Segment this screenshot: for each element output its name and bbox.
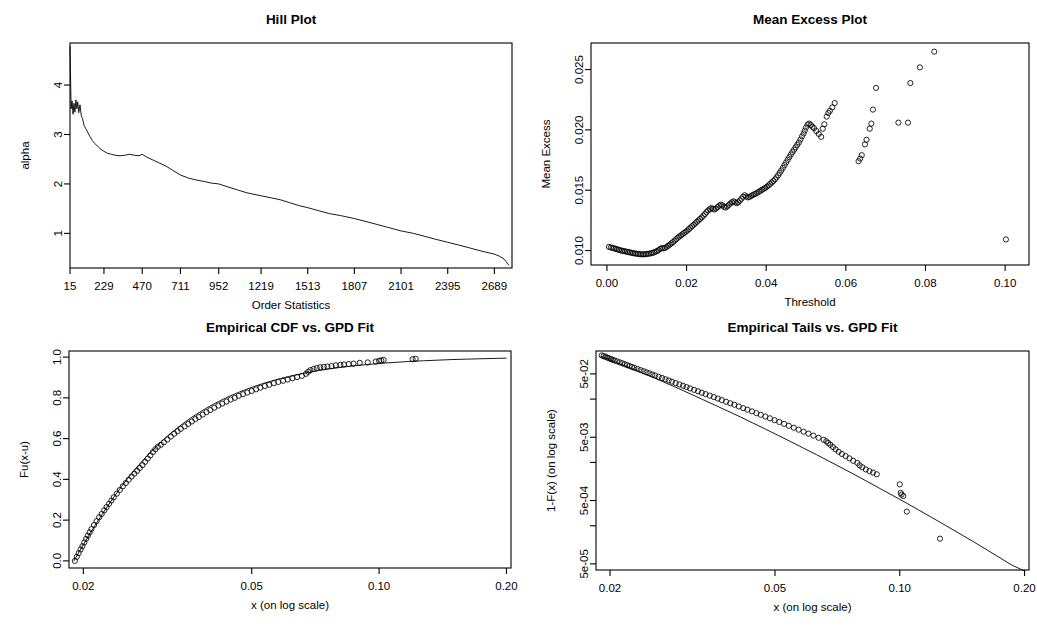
data-point: [870, 107, 875, 112]
data-point: [182, 424, 187, 429]
data-point: [341, 362, 346, 367]
data-point: [801, 429, 806, 434]
data-point: [897, 482, 902, 487]
data-point: [663, 377, 668, 382]
data-point: [165, 437, 170, 442]
empirical-tails-plot-fit-curve: [601, 356, 1025, 571]
x-tick-label: 0.02: [599, 582, 621, 594]
hill-plot-x-axis-title: Order Statistics: [252, 299, 331, 311]
empirical-cdf-plot-canvas[interactable]: Empirical CDF vs. GPD Fit0.020.050.100.2…: [0, 318, 519, 636]
x-tick-label: 0.05: [764, 582, 786, 594]
hill-plot-title: Hill Plot: [266, 12, 317, 27]
x-tick-label: 0.20: [1013, 582, 1035, 594]
empirical-tails-plot-canvas[interactable]: Empirical Tails vs. GPD Fit0.020.050.100…: [519, 318, 1037, 636]
mean-excess-plot-title: Mean Excess Plot: [753, 12, 868, 27]
y-tick-label: 0.8: [51, 390, 63, 406]
y-tick-label: 0.0: [51, 553, 63, 569]
data-point: [867, 126, 872, 131]
data-point: [168, 434, 173, 439]
y-tick-label: 3: [52, 131, 64, 137]
data-point: [816, 435, 821, 440]
data-point: [357, 360, 362, 365]
panel-empirical-tails-plot: Empirical Tails vs. GPD Fit0.020.050.100…: [519, 318, 1037, 636]
x-tick-label: 2395: [435, 280, 461, 292]
y-tick-label: 2: [52, 181, 64, 187]
x-tick-label: 0.02: [72, 580, 94, 592]
y-tick-label: 1: [52, 230, 64, 236]
empirical-tails-plot-y-axis-title: 1-F(x) (on log scale): [545, 409, 557, 512]
x-tick-label: 470: [133, 280, 152, 292]
data-point: [725, 204, 730, 209]
x-tick-label: 0.04: [755, 277, 778, 289]
data-point: [413, 356, 418, 361]
x-tick-label: 0.08: [914, 277, 936, 289]
data-point: [917, 65, 922, 70]
data-point: [693, 221, 698, 226]
data-point: [896, 120, 901, 125]
x-tick-label: 0.10: [994, 277, 1016, 289]
x-tick-label: 952: [209, 280, 228, 292]
data-point: [796, 427, 801, 432]
x-tick-label: 0.20: [495, 580, 517, 592]
data-point: [811, 433, 816, 438]
y-tick-label: 4: [52, 81, 64, 88]
data-point: [806, 431, 811, 436]
empirical-cdf-plot-y-axis-title: Fu(x-u): [18, 441, 30, 478]
data-point: [684, 384, 689, 389]
y-tick-label: 0.6: [51, 431, 63, 447]
data-point: [691, 222, 696, 227]
x-tick-label: 0.05: [241, 580, 263, 592]
y-tick-label: 0.010: [573, 236, 585, 265]
y-tick-label: 0.4: [51, 471, 63, 488]
y-tick-label: 5e-03: [578, 423, 590, 452]
x-tick-label: 2101: [388, 280, 414, 292]
y-tick-label: 0.015: [573, 176, 585, 205]
panel-mean-excess-plot: Mean Excess Plot0.000.020.040.060.080.10…: [519, 0, 1037, 318]
data-point: [905, 120, 910, 125]
x-tick-label: 0.02: [675, 277, 697, 289]
hill-plot-data-layer: [70, 46, 509, 265]
data-point: [694, 219, 699, 224]
empirical-cdf-plot-fit-curve: [74, 358, 507, 561]
hill-plot-data-line: [70, 46, 509, 265]
x-tick-label: 229: [94, 280, 113, 292]
data-point: [908, 80, 913, 85]
data-point: [314, 366, 319, 371]
plot-grid: Hill Plot1522947071195212191513180721012…: [0, 0, 1037, 636]
x-tick-label: 15: [64, 280, 77, 292]
x-tick-label: 0.00: [596, 277, 618, 289]
panel-hill-plot: Hill Plot1522947071195212191513180721012…: [0, 0, 519, 318]
x-tick-label: 0.10: [368, 580, 390, 592]
y-tick-label: 5e-04: [578, 485, 590, 515]
empirical-tails-plot-title: Empirical Tails vs. GPD Fit: [727, 320, 898, 335]
data-point: [864, 137, 869, 142]
data-point: [690, 224, 695, 229]
hill-plot-canvas[interactable]: Hill Plot1522947071195212191513180721012…: [0, 0, 519, 318]
data-point: [777, 419, 782, 424]
y-tick-label: 0.020: [573, 115, 585, 144]
empirical-cdf-plot-plot-box: [69, 351, 511, 568]
data-point: [1003, 237, 1008, 242]
data-point: [832, 100, 837, 105]
y-tick-label: 1.0: [51, 349, 63, 365]
data-point: [656, 374, 661, 379]
data-point: [869, 121, 874, 126]
empirical-tails-plot-data-layer: [599, 353, 1024, 571]
data-point: [937, 536, 942, 541]
mean-excess-plot-canvas[interactable]: Mean Excess Plot0.000.020.040.060.080.10…: [519, 0, 1037, 318]
empirical-tails-plot-plot-box: [596, 351, 1029, 570]
y-tick-label: 5e-02: [578, 359, 590, 388]
x-tick-label: 1219: [248, 280, 274, 292]
data-point: [688, 225, 693, 230]
data-point: [666, 378, 671, 383]
y-tick-label: 0.2: [51, 512, 63, 528]
x-tick-label: 0.06: [835, 277, 857, 289]
x-tick-label: 711: [171, 280, 189, 292]
data-point: [932, 49, 937, 54]
data-point: [200, 412, 205, 417]
data-point: [847, 456, 852, 461]
x-tick-label: 1807: [342, 280, 368, 292]
y-tick-label: 5e-05: [578, 549, 590, 578]
data-point: [807, 121, 812, 126]
data-point: [904, 509, 909, 514]
